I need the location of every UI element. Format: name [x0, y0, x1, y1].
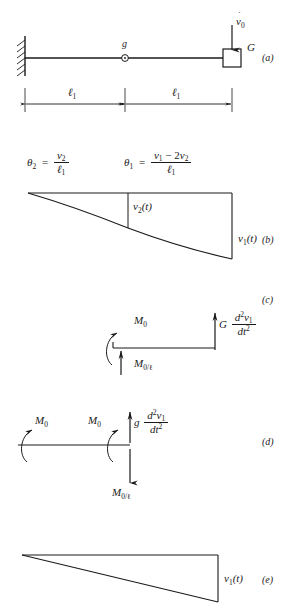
deflection-label-v2: v2(t) — [133, 201, 152, 212]
moment-label-d-left: M0 — [35, 415, 48, 426]
dimension-label-right: ℓ1 — [172, 87, 180, 98]
panel-letter-e: (e) — [262, 575, 273, 585]
moment-arrow-d-right — [108, 430, 118, 462]
equation-theta-2: θ2 = v2 ℓ1 — [27, 150, 69, 175]
inertia-force-label-d: g d2v1 dt2 — [134, 410, 168, 435]
panel-a-graphics — [17, 25, 241, 112]
panel-b-graphics — [28, 193, 232, 259]
deflection-curve — [28, 193, 232, 259]
figure-root: ˙ v0 G g ℓ1 ℓ1 (a) θ2 = v2 ℓ1 θ1 = v1 − … — [0, 0, 294, 614]
dimension-label-left: ℓ1 — [68, 87, 76, 98]
deflection-line-e — [22, 555, 218, 602]
lumped-mass-block — [223, 49, 241, 67]
dimension-line-group — [25, 88, 232, 112]
panel-c-graphics — [107, 313, 215, 375]
panel-letter-c: (c) — [262, 295, 273, 305]
figure-vector-layer — [0, 0, 294, 614]
panel-e-graphics — [22, 555, 218, 602]
applied-motion-label: ˙ v0 — [236, 16, 245, 27]
equation-theta-1: θ1 = v1 − 2v2 ℓ1 — [124, 150, 191, 175]
fixed-support-icon — [17, 36, 25, 76]
inertia-force-label-c: G d2v1 dt2 — [219, 312, 256, 337]
panel-letter-b: (b) — [262, 235, 274, 245]
midspan-marker-label: g — [122, 39, 127, 49]
deflection-label-v1-e: v1(t) — [224, 573, 243, 584]
lumped-mass-label: G — [247, 42, 255, 53]
reaction-label-d: M0/ℓ — [112, 487, 131, 498]
moment-label-d-right: M0 — [88, 415, 101, 426]
moment-label-c: M0 — [134, 315, 147, 326]
panel-letter-a: (a) — [262, 53, 274, 63]
reaction-label-c: M0/ℓ — [134, 358, 153, 369]
moment-arrow-c — [107, 333, 117, 365]
deflection-label-v1-b: v1(t) — [238, 233, 257, 244]
panel-letter-d: (d) — [262, 437, 274, 447]
moment-arrow-d-left — [22, 430, 32, 462]
